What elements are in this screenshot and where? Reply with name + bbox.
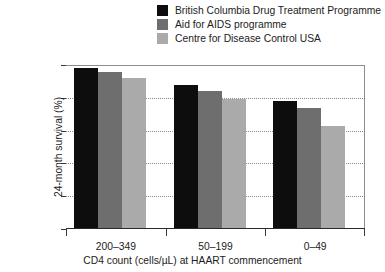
plot-right-spine	[364, 65, 365, 229]
y-axis-title: 24-month survival (%)	[53, 97, 64, 197]
legend-item-bc-drug-treatment: British Columbia Drug Treatment Programm…	[157, 4, 381, 17]
bar	[297, 108, 321, 229]
bar	[122, 78, 146, 229]
bar	[198, 91, 222, 229]
x-tick-label: 50–199	[166, 241, 266, 252]
legend-swatch-light-grey	[157, 33, 168, 44]
plot-area: 020406080100 24-month survival (%) 200–3…	[66, 65, 365, 229]
x-tick-label: 0–49	[265, 241, 365, 252]
x-axis-end-tick-left	[66, 229, 67, 236]
bar	[98, 72, 122, 229]
bar-group	[74, 65, 146, 229]
x-axis-title: CD4 count (cells/µL) at HAART commenceme…	[0, 255, 385, 266]
bar	[321, 126, 345, 229]
x-group-separator-tick	[166, 229, 167, 236]
legend-label-bc-drug-treatment: British Columbia Drug Treatment Programm…	[175, 5, 381, 16]
x-axis-end-tick-right	[364, 229, 365, 236]
chart-legend: British Columbia Drug Treatment Programm…	[157, 4, 381, 45]
legend-item-aid-for-aids: Aid for AIDS programme	[157, 18, 381, 31]
legend-label-cdc-usa: Centre for Disease Control USA	[175, 33, 321, 44]
bar-group	[273, 65, 345, 229]
bar	[74, 68, 98, 229]
legend-swatch-black	[157, 5, 168, 16]
x-group-separator-tick	[265, 229, 266, 236]
x-axis-line	[66, 228, 365, 229]
x-tick-label: 200–349	[66, 241, 166, 252]
bar	[222, 99, 246, 229]
legend-item-cdc-usa: Centre for Disease Control USA	[157, 32, 381, 45]
legend-label-aid-for-aids: Aid for AIDS programme	[175, 19, 287, 30]
bar	[174, 85, 198, 229]
bar	[273, 101, 297, 229]
bar-group	[174, 65, 246, 229]
y-tick-mark-100	[61, 65, 66, 66]
legend-swatch-grey	[157, 19, 168, 30]
